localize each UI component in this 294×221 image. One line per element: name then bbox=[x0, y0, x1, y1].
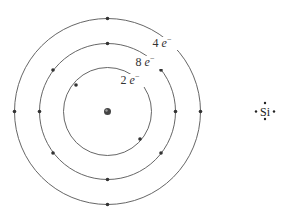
valence-dot-right bbox=[273, 110, 275, 112]
electron bbox=[38, 110, 42, 114]
nucleus-highlight bbox=[105, 109, 107, 111]
electron bbox=[106, 203, 110, 207]
electron bbox=[13, 110, 17, 114]
electron bbox=[51, 151, 55, 155]
nucleus bbox=[104, 108, 111, 115]
electron bbox=[74, 83, 78, 87]
lewis-element-symbol: Si bbox=[260, 105, 271, 119]
electron bbox=[106, 17, 110, 21]
valence-dot-bottom bbox=[264, 118, 266, 120]
electron bbox=[106, 42, 110, 46]
electron bbox=[199, 110, 203, 114]
electron bbox=[138, 137, 142, 141]
bohr-model-diagram: 2 e−8 e−4 e− Si bbox=[0, 0, 294, 221]
electron bbox=[51, 68, 55, 72]
lewis-dot-structure: Si bbox=[255, 102, 275, 120]
shell-labels: 2 e−8 e−4 e− bbox=[121, 35, 180, 87]
valence-dot-left bbox=[255, 110, 257, 112]
electron bbox=[106, 178, 110, 182]
nucleus-dot bbox=[104, 108, 111, 115]
valence-dot-top bbox=[264, 102, 266, 104]
electron bbox=[174, 110, 178, 114]
electron bbox=[159, 151, 163, 155]
